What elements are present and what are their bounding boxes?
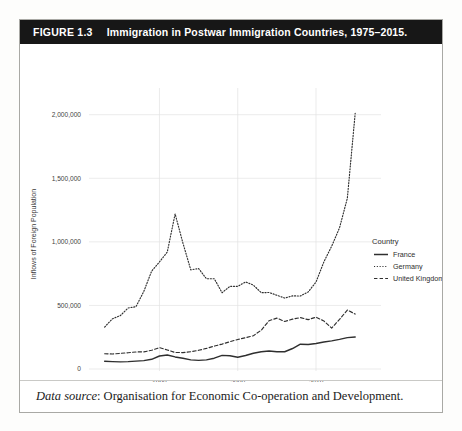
figure-label: FIGURE 1.3 bbox=[33, 26, 93, 38]
gridlines-group bbox=[89, 88, 381, 371]
chart-legend: CountryFranceGermanyUnited Kingdom bbox=[372, 237, 442, 283]
caption-source-value: : Organisation for Economic Co-operation… bbox=[97, 389, 403, 403]
y-axis-ticks: 0500,0001,000,0001,500,0002,000,000 bbox=[52, 111, 82, 372]
legend-label-united-kingdom: United Kingdom bbox=[393, 274, 442, 283]
y-tick-label: 2,000,000 bbox=[52, 111, 82, 118]
figure-caption: Data source: Organisation for Economic C… bbox=[20, 380, 442, 412]
figure-title: Immigration in Postwar Immigration Count… bbox=[107, 26, 408, 38]
series-line-united-kingdom bbox=[105, 310, 356, 354]
legend-label-germany: Germany bbox=[393, 262, 423, 271]
chart-plot-area: 0500,0001,000,0001,500,0002,000,000 1990… bbox=[20, 44, 442, 382]
y-tick-label: 1,000,000 bbox=[52, 238, 82, 245]
series-line-france bbox=[105, 337, 356, 362]
y-tick-label: 1,500,000 bbox=[52, 175, 82, 182]
caption-text-line: Data source: Organisation for Economic C… bbox=[36, 389, 403, 404]
data-series-group bbox=[105, 113, 356, 361]
series-line-germany bbox=[105, 113, 356, 327]
line-chart-svg: 0500,0001,000,0001,500,0002,000,000 1990… bbox=[20, 44, 442, 382]
figure-title-bar: FIGURE 1.3 Immigration in Postwar Immigr… bbox=[20, 20, 442, 44]
page-canvas: FIGURE 1.3 Immigration in Postwar Immigr… bbox=[0, 0, 462, 431]
legend-label-france: France bbox=[393, 250, 415, 259]
y-tick-label: 500,000 bbox=[57, 302, 81, 309]
figure-box: FIGURE 1.3 Immigration in Postwar Immigr… bbox=[19, 19, 443, 413]
y-axis-label: Inflows of Foreign Population bbox=[30, 189, 38, 279]
y-tick-label: 0 bbox=[77, 365, 81, 372]
legend-title: Country bbox=[372, 237, 399, 246]
caption-source-label: Data source bbox=[36, 389, 97, 403]
